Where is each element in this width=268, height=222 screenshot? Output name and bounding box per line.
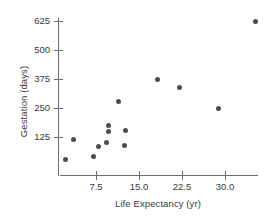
data-point xyxy=(106,123,111,128)
data-point xyxy=(253,19,258,24)
scatter-plot-figure: Gestation (days) Life Expectancy (yr) 12… xyxy=(0,0,268,222)
data-point xyxy=(91,154,96,159)
data-point xyxy=(71,137,76,142)
data-point xyxy=(96,144,101,149)
data-point xyxy=(63,157,68,162)
plot-area xyxy=(0,0,268,222)
data-point xyxy=(122,143,127,148)
data-point xyxy=(106,129,111,134)
data-point xyxy=(116,99,121,104)
data-point xyxy=(123,128,128,133)
data-point xyxy=(155,77,160,82)
data-point xyxy=(177,85,182,90)
data-point xyxy=(216,106,221,111)
data-point xyxy=(104,140,109,145)
